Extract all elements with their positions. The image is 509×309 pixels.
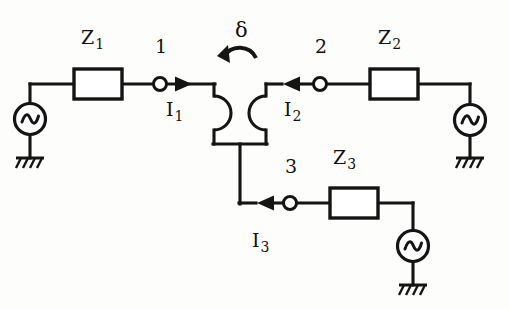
wire-hop-right — [249, 96, 266, 130]
label-impedance-z2-base: Z — [378, 26, 391, 48]
label-impedance-z1-sub: 1 — [95, 36, 104, 52]
label-rotation-delta: δ — [235, 20, 248, 41]
label-impedance-z3-sub: 3 — [347, 156, 356, 172]
circuit-schematic-svg — [0, 0, 509, 309]
current-arrow-i2 — [283, 77, 300, 92]
terminal-node-3[interactable] — [284, 197, 297, 210]
ac-source-1[interactable] — [15, 104, 46, 135]
ground-symbol-bottom — [399, 285, 427, 295]
ground-symbol-left — [16, 158, 44, 168]
terminal-node-1[interactable] — [154, 78, 167, 91]
wire-hop-left — [214, 96, 231, 130]
impedance-box-z3[interactable] — [330, 188, 378, 218]
center-node-assembly — [213, 84, 267, 204]
label-current-i1: I1 — [166, 100, 182, 119]
label-current-i1-base: I — [166, 98, 174, 120]
label-impedance-z3-base: Z — [333, 146, 346, 168]
terminal-node-2[interactable] — [314, 78, 327, 91]
ground-symbol-right — [456, 158, 484, 168]
label-node-3: 3 — [285, 157, 297, 176]
label-current-i2-sub: 2 — [293, 108, 302, 124]
label-current-i1-sub: 1 — [175, 108, 184, 124]
ac-source-2[interactable] — [455, 105, 486, 136]
label-impedance-z2: Z2 — [378, 28, 400, 47]
current-arrow-i3 — [257, 196, 274, 211]
label-node-1: 1 — [155, 37, 167, 56]
label-impedance-z3: Z3 — [333, 148, 355, 167]
rotation-arrow-delta — [217, 45, 256, 63]
circuit-diagram-figure: Z1 1 I1 δ 2 I2 Z2 3 Z3 I3 — [0, 0, 509, 309]
label-node-2: 2 — [315, 37, 327, 56]
label-impedance-z1: Z1 — [81, 28, 103, 47]
current-arrow-i1 — [175, 77, 192, 92]
ac-source-3[interactable] — [398, 231, 429, 262]
label-current-i3: I3 — [252, 231, 268, 250]
impedance-box-z2[interactable] — [370, 69, 418, 99]
label-current-i2: I2 — [284, 100, 300, 119]
label-current-i2-base: I — [284, 98, 292, 120]
label-impedance-z1-base: Z — [81, 26, 94, 48]
label-current-i3-sub: 3 — [261, 239, 270, 255]
label-impedance-z2-sub: 2 — [392, 36, 401, 52]
label-current-i3-base: I — [252, 229, 260, 251]
impedance-box-z1[interactable] — [74, 69, 122, 99]
